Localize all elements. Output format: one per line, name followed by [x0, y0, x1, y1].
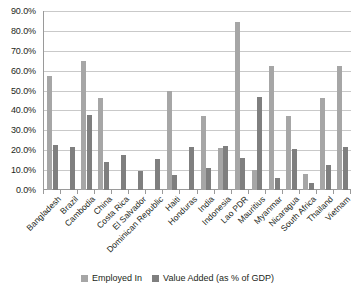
bar-group	[129, 11, 146, 190]
y-axis-tick-label: 60.0%	[11, 66, 36, 76]
y-axis-tick-label: 40.0%	[11, 105, 36, 115]
bar-group	[95, 11, 112, 190]
y-axis-tick-label: 70.0%	[11, 46, 36, 56]
y-axis-tick-label: 80.0%	[11, 26, 36, 36]
bar	[47, 76, 52, 190]
y-axis-labels: 0.0%10.0%20.0%30.0%40.0%50.0%60.0%70.0%8…	[0, 0, 40, 190]
legend-label: Value Added (as % of GDP)	[163, 273, 274, 283]
legend-item[interactable]: Value Added (as % of GDP)	[152, 273, 274, 283]
bar	[235, 22, 240, 190]
legend-swatch-icon	[81, 275, 88, 282]
legend-item[interactable]: Employed In	[81, 273, 142, 283]
y-axis-tick-label: 90.0%	[11, 6, 36, 16]
chart-legend: Employed InValue Added (as % of GDP)	[0, 270, 355, 286]
legend-label: Employed In	[92, 273, 142, 283]
bar-group	[61, 11, 78, 190]
bar-group	[249, 11, 266, 190]
bar-group	[266, 11, 283, 190]
y-axis-tick-label: 10.0%	[11, 165, 36, 175]
y-axis-tick-label: 20.0%	[11, 145, 36, 155]
bar-group	[283, 11, 300, 190]
bar-group	[44, 11, 61, 190]
bar-group	[112, 11, 129, 190]
bar	[98, 98, 103, 190]
y-axis-tick-label: 50.0%	[11, 86, 36, 96]
bar	[53, 145, 58, 190]
bar-group	[215, 11, 232, 190]
legend-swatch-icon	[152, 275, 159, 282]
bar-chart: 0.0%10.0%20.0%30.0%40.0%50.0%60.0%70.0%8…	[0, 0, 355, 289]
bar-group	[317, 11, 334, 190]
bar-group	[146, 11, 163, 190]
bar-group	[300, 11, 317, 190]
y-axis-tick-label: 30.0%	[11, 125, 36, 135]
x-axis-category-labels: BangladeshBrazilCambodiaChinaCosta RicaE…	[0, 194, 355, 266]
bar-group	[232, 11, 249, 190]
